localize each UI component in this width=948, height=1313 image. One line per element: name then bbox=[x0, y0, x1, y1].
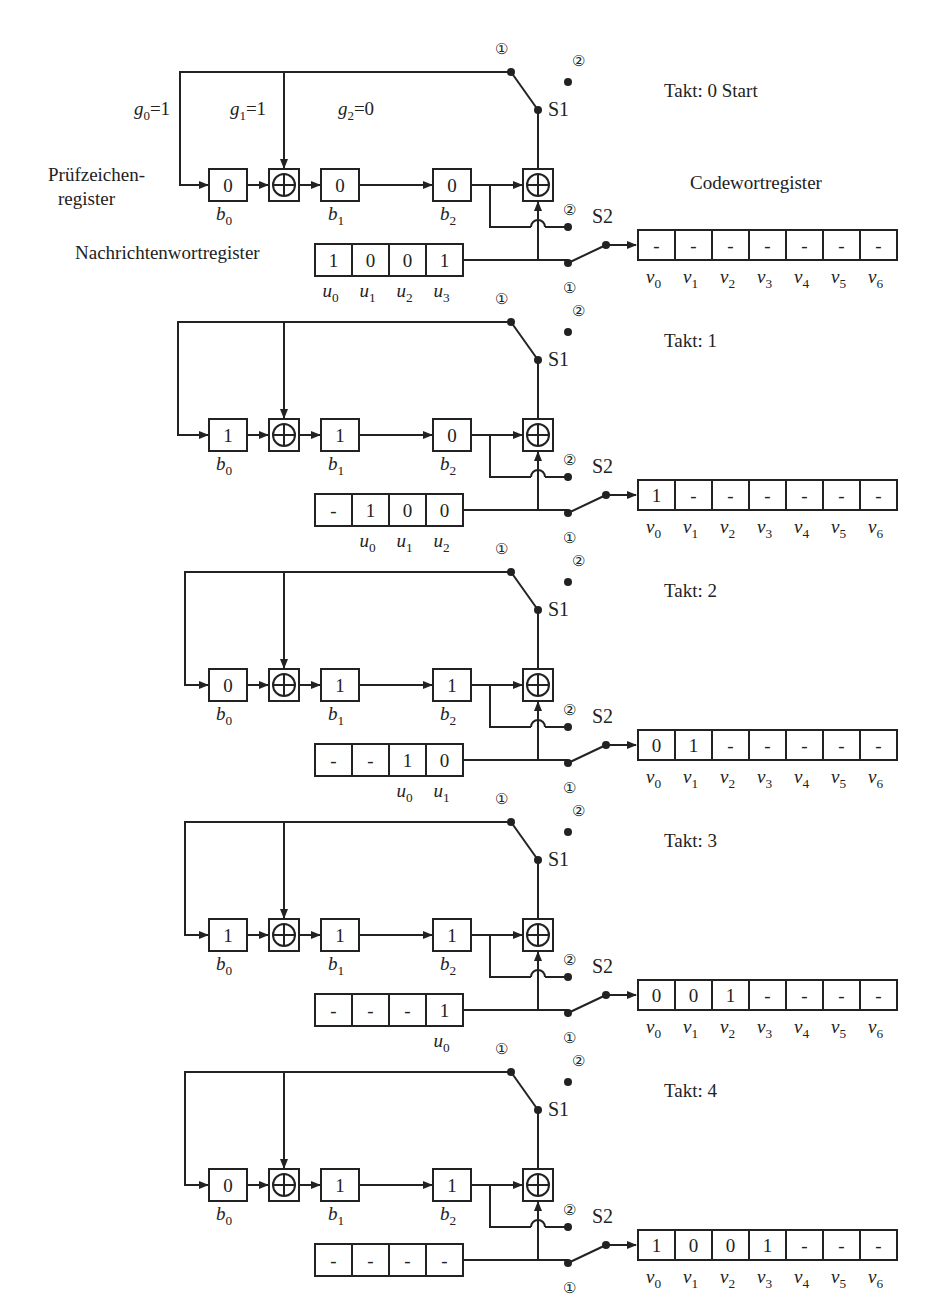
takt-label: Takt: 4 bbox=[664, 1080, 718, 1101]
register-label-b2: b2 bbox=[440, 703, 456, 728]
pruefzeichen-label-2: register bbox=[58, 188, 116, 209]
message-label-u2: u2 bbox=[396, 280, 412, 305]
codeword-label-v6: v6 bbox=[868, 266, 883, 291]
s1-label: S1 bbox=[548, 348, 569, 370]
register-value-b2: 0 bbox=[447, 175, 457, 196]
codeword-value-v4: - bbox=[801, 1235, 807, 1256]
message-value-0: - bbox=[330, 1250, 336, 1271]
s1-label: S1 bbox=[548, 848, 569, 870]
register-label-b2: b2 bbox=[440, 203, 456, 228]
xor-gate-2 bbox=[523, 419, 553, 451]
codeword-value-v1: - bbox=[690, 485, 696, 506]
s1-contact-2 bbox=[564, 1078, 572, 1086]
codeword-value-v4: - bbox=[801, 985, 807, 1006]
codeword-value-v2: - bbox=[727, 485, 733, 506]
codeword-value-v6: - bbox=[875, 1235, 881, 1256]
message-value-1: - bbox=[367, 1000, 373, 1021]
codeword-label-v2: v2 bbox=[720, 266, 735, 291]
s1-contact-2 bbox=[564, 828, 572, 836]
codeword-label-v1: v1 bbox=[683, 266, 698, 291]
s2-switch-arm bbox=[568, 1245, 606, 1263]
s1-label: S1 bbox=[548, 1098, 569, 1120]
message-value-2: 1 bbox=[403, 750, 413, 771]
codeword-value-v2: - bbox=[727, 235, 733, 256]
register-label-b1: b1 bbox=[328, 453, 344, 478]
codeword-value-v0: 0 bbox=[652, 735, 662, 756]
codeword-label-v3: v3 bbox=[757, 266, 772, 291]
codeword-label-v5: v5 bbox=[831, 1266, 846, 1291]
codeword-value-v3: 1 bbox=[763, 1235, 773, 1256]
register-label-b1: b1 bbox=[328, 953, 344, 978]
register-value-b1: 1 bbox=[335, 1175, 345, 1196]
codeword-value-v2: 0 bbox=[726, 1235, 736, 1256]
codeword-value-v3: - bbox=[764, 985, 770, 1006]
s1-pos2-label: ② bbox=[572, 1053, 585, 1069]
codeword-label-v2: v2 bbox=[720, 1016, 735, 1041]
s1-pos1-label: ① bbox=[495, 791, 508, 807]
step-takt-4: ①②S1Takt: 40b01b11b2②S2----①1v00v10v21v3… bbox=[185, 1041, 897, 1296]
takt-label: Takt: 3 bbox=[664, 830, 717, 851]
codeword-value-v5: - bbox=[838, 235, 844, 256]
xor-gate-2 bbox=[523, 1169, 553, 1201]
register-label-b2: b2 bbox=[440, 1203, 456, 1228]
register-value-b1: 1 bbox=[335, 925, 345, 946]
codeword-label-v1: v1 bbox=[683, 516, 698, 541]
codeword-value-v4: - bbox=[801, 235, 807, 256]
s1-switch-arm bbox=[511, 72, 538, 110]
register-label-b0: b0 bbox=[216, 1203, 233, 1228]
codeword-value-v2: 1 bbox=[726, 985, 736, 1006]
s2-label: S2 bbox=[592, 1205, 613, 1227]
message-label-u1: u1 bbox=[433, 780, 449, 805]
s2-pos1-label: ① bbox=[563, 530, 576, 546]
message-value-3: 0 bbox=[440, 500, 450, 521]
codeword-label-v4: v4 bbox=[794, 266, 809, 291]
message-value-2: - bbox=[404, 1250, 410, 1271]
s1-switch-arm bbox=[511, 572, 538, 610]
s2-pos2-label: ② bbox=[563, 202, 576, 218]
cyclic-encoder-diagram: ①②S1g0=1g1=1g2=0Prüfzeichen-registerNach… bbox=[0, 0, 948, 1313]
codeword-value-v6: - bbox=[875, 985, 881, 1006]
register-value-b0: 0 bbox=[223, 175, 233, 196]
codeword-label-v0: v0 bbox=[646, 766, 661, 791]
s1-pos1-label: ① bbox=[495, 41, 508, 57]
xor-gate-2 bbox=[523, 169, 553, 201]
s1-label: S1 bbox=[548, 98, 569, 120]
codeword-value-v6: - bbox=[875, 235, 881, 256]
codeword-label-v5: v5 bbox=[831, 516, 846, 541]
s1-label: S1 bbox=[548, 598, 569, 620]
xor-gate-2 bbox=[523, 919, 553, 951]
codeword-label-v5: v5 bbox=[831, 266, 846, 291]
nachrichtenwort-label: Nachrichtenwortregister bbox=[75, 242, 260, 263]
codeword-label-v3: v3 bbox=[757, 1266, 772, 1291]
message-value-1: 0 bbox=[366, 250, 376, 271]
s1-pos2-label: ② bbox=[572, 53, 585, 69]
register-value-b1: 1 bbox=[335, 425, 345, 446]
codeword-label-v2: v2 bbox=[720, 516, 735, 541]
register-value-b1: 0 bbox=[335, 175, 345, 196]
codeword-label-v4: v4 bbox=[794, 766, 809, 791]
message-value-3: 1 bbox=[440, 1000, 450, 1021]
codeword-label-v6: v6 bbox=[868, 766, 883, 791]
s2-pos2-label: ② bbox=[563, 1202, 576, 1218]
s1-pos1-label: ① bbox=[495, 1041, 508, 1057]
s2-pos1-label: ① bbox=[563, 780, 576, 796]
message-label-u3: u3 bbox=[433, 280, 450, 305]
codeword-value-v6: - bbox=[875, 735, 881, 756]
message-value-0: 1 bbox=[329, 250, 339, 271]
register-value-b0: 0 bbox=[223, 675, 233, 696]
s2-contact-2 bbox=[564, 973, 572, 981]
step-takt-2: ①②S1Takt: 20b01b11b2②S2--1u00u1①0v01v1-v… bbox=[185, 541, 897, 805]
s1-contact-2 bbox=[564, 578, 572, 586]
codeword-label-v1: v1 bbox=[683, 766, 698, 791]
register-label-b0: b0 bbox=[216, 953, 233, 978]
codeword-label-v3: v3 bbox=[757, 516, 772, 541]
s2-switch-arm bbox=[568, 495, 606, 513]
s2-contact-2 bbox=[564, 473, 572, 481]
s2-pos1-label: ① bbox=[563, 280, 576, 296]
message-label-u0: u0 bbox=[359, 530, 376, 555]
s2-pos2-label: ② bbox=[563, 702, 576, 718]
codeword-value-v1: 0 bbox=[689, 985, 699, 1006]
message-value-3: 1 bbox=[440, 250, 450, 271]
register-label-b1: b1 bbox=[328, 1203, 344, 1228]
codeword-label-v4: v4 bbox=[794, 1016, 809, 1041]
